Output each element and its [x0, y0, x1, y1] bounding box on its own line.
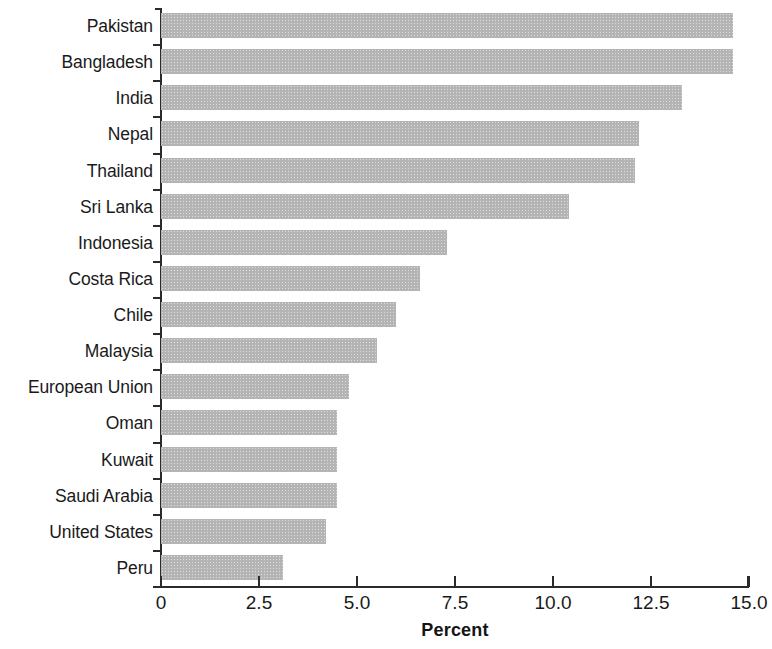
- bar-united-states: [161, 519, 326, 544]
- bar-row: [161, 261, 749, 296]
- bar-row: [161, 405, 749, 440]
- bar-row: [161, 478, 749, 513]
- y-axis-label-costa-rica: Costa Rica: [3, 269, 153, 289]
- y-axis-label-india: India: [3, 88, 153, 108]
- x-axis-tick: [356, 576, 358, 587]
- bar-row: [161, 8, 749, 43]
- y-axis-label-kuwait: Kuwait: [3, 450, 153, 470]
- y-axis-label-oman: Oman: [3, 413, 153, 433]
- x-axis-title: Percent: [161, 620, 749, 641]
- x-axis-tick-label: 2.5: [219, 591, 299, 615]
- x-axis-tick: [552, 576, 554, 587]
- y-axis-label-european-union: European Union: [3, 377, 153, 397]
- y-axis-label-malaysia: Malaysia: [3, 341, 153, 361]
- x-axis-tick: [258, 576, 260, 587]
- x-axis-tick-label: 5.0: [317, 591, 397, 615]
- bar-saudi-arabia: [161, 483, 337, 508]
- bar-indonesia: [161, 230, 447, 255]
- bar-european-union: [161, 374, 349, 399]
- x-axis-tick: [650, 576, 652, 587]
- bar-row: [161, 333, 749, 368]
- x-axis-tick-label: 7.5: [415, 591, 495, 615]
- y-axis-labels: PakistanBangladeshIndiaNepalThailandSri …: [0, 8, 153, 586]
- bar-row: [161, 80, 749, 115]
- bar-row: [161, 442, 749, 477]
- y-axis-label-indonesia: Indonesia: [3, 233, 153, 253]
- x-axis-tick: [160, 576, 162, 587]
- y-axis-label-united-states: United States: [3, 522, 153, 542]
- bar-row: [161, 153, 749, 188]
- bar-chile: [161, 302, 396, 327]
- x-axis-tick-label: 0: [121, 591, 201, 615]
- bar-sri-lanka: [161, 194, 569, 219]
- horizontal-bar-chart: PakistanBangladeshIndiaNepalThailandSri …: [0, 0, 772, 649]
- bar-thailand: [161, 158, 635, 183]
- bar-peru: [161, 555, 283, 580]
- plot-area: [161, 8, 749, 586]
- x-axis-tick: [454, 576, 456, 587]
- bar-row: [161, 514, 749, 549]
- bar-nepal: [161, 121, 639, 146]
- bar-row: [161, 116, 749, 151]
- x-axis-tick: [748, 576, 750, 587]
- bar-row: [161, 189, 749, 224]
- y-axis-label-sri-lanka: Sri Lanka: [3, 197, 153, 217]
- y-axis-label-peru: Peru: [3, 558, 153, 578]
- y-axis-label-bangladesh: Bangladesh: [3, 52, 153, 72]
- y-axis-label-chile: Chile: [3, 305, 153, 325]
- bar-costa-rica: [161, 266, 420, 291]
- bar-row: [161, 297, 749, 332]
- x-axis-tick-label: 10.0: [513, 591, 593, 615]
- y-axis-label-nepal: Nepal: [3, 124, 153, 144]
- bar-row: [161, 369, 749, 404]
- bar-bangladesh: [161, 49, 733, 74]
- x-axis-tick-label: 15.0: [709, 591, 772, 615]
- bar-kuwait: [161, 447, 337, 472]
- y-axis-label-pakistan: Pakistan: [3, 16, 153, 36]
- bar-malaysia: [161, 338, 377, 363]
- bar-pakistan: [161, 13, 733, 38]
- y-axis-label-thailand: Thailand: [3, 161, 153, 181]
- bar-oman: [161, 410, 337, 435]
- bar-row: [161, 225, 749, 260]
- bar-india: [161, 85, 682, 110]
- y-axis-label-saudi-arabia: Saudi Arabia: [3, 486, 153, 506]
- x-axis-tick-label: 12.5: [611, 591, 691, 615]
- bar-row: [161, 44, 749, 79]
